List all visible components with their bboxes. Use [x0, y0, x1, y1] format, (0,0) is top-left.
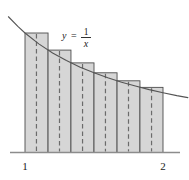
equation-denominator-x: x — [83, 38, 89, 49]
curve-equation-label: y = 1 x — [61, 27, 91, 49]
figure-container: 1 2 y = 1 x — [0, 0, 189, 180]
riemann-sum-figure: 1 2 y = 1 x — [0, 0, 189, 180]
x-tick-label-1: 1 — [22, 160, 28, 172]
equation-equals-sign: = — [71, 30, 77, 41]
riemann-rectangles-group — [25, 33, 163, 153]
equation-numerator-1: 1 — [84, 27, 89, 37]
x-tick-label-2: 2 — [160, 160, 166, 172]
equation-lhs-y: y — [61, 30, 67, 41]
